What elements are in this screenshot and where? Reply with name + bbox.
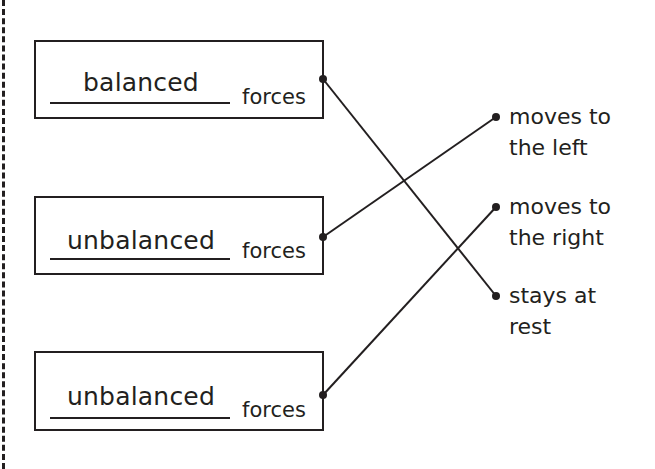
dot-left-2 <box>319 233 327 241</box>
dot-left-3 <box>319 391 327 399</box>
option-3-line2: rest <box>509 311 596 342</box>
line-unbalanced-to-left <box>323 117 496 237</box>
dot-right-3 <box>492 292 500 300</box>
dot-left-1 <box>319 75 327 83</box>
option-moves-left: moves to the left <box>509 101 611 163</box>
line-balanced-to-rest <box>323 79 496 296</box>
dot-right-2 <box>492 203 500 211</box>
option-2-line1: moves to <box>509 191 611 222</box>
option-moves-right: moves to the right <box>509 191 611 253</box>
option-2-line2: the right <box>509 222 611 253</box>
option-1-line2: the left <box>509 132 611 163</box>
option-3-line1: stays at <box>509 280 596 311</box>
line-unbalanced-to-right <box>323 207 496 395</box>
option-1-line1: moves to <box>509 101 611 132</box>
option-stays-at-rest: stays at rest <box>509 280 596 342</box>
dot-right-1 <box>492 113 500 121</box>
